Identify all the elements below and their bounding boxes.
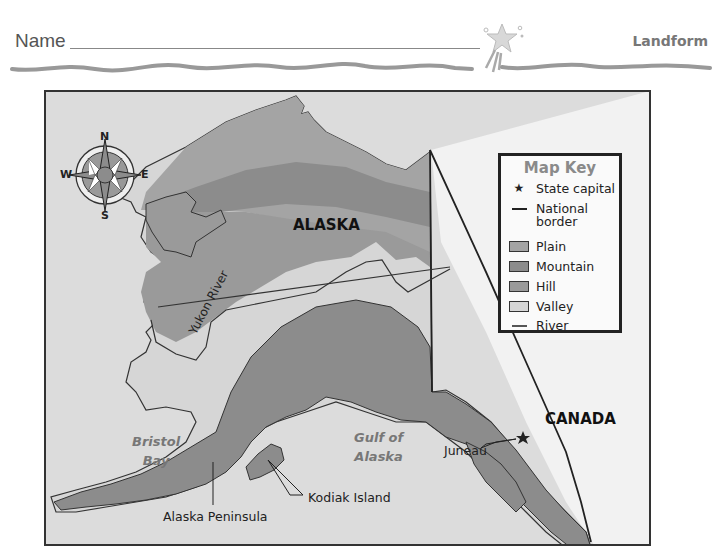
compass-east: E bbox=[141, 168, 149, 181]
kodiak-island-label: Kodiak Island bbox=[308, 490, 391, 505]
bristol-bay-label: Bristol Bay bbox=[132, 432, 180, 470]
name-input-line[interactable] bbox=[70, 48, 480, 49]
alaska-peninsula-label: Alaska Peninsula bbox=[163, 509, 268, 524]
region-label-canada: CANADA bbox=[545, 410, 616, 428]
juneau-label: Juneau bbox=[444, 443, 487, 458]
compass-north: N bbox=[100, 130, 109, 143]
river-line-icon bbox=[509, 319, 529, 332]
kodiak-pointer bbox=[268, 460, 303, 495]
map-key-title: Map Key bbox=[501, 159, 619, 177]
gulf-of-alaska-label: Gulf of Alaska bbox=[354, 428, 403, 466]
topic-label: Landform bbox=[632, 33, 708, 49]
compass-south: S bbox=[101, 209, 109, 222]
map-key: Map Key ★ State capital National border … bbox=[498, 153, 622, 333]
hill-swatch bbox=[509, 281, 529, 292]
worksheet-header: Name Landform bbox=[0, 0, 716, 85]
plain-swatch bbox=[509, 241, 529, 252]
wavy-divider bbox=[0, 55, 716, 80]
kodiak-island bbox=[246, 444, 284, 480]
mountain-swatch bbox=[509, 261, 529, 272]
star-icon: ★ bbox=[509, 182, 529, 195]
border-line-icon bbox=[509, 202, 529, 215]
name-label: Name bbox=[15, 30, 66, 52]
region-label-alaska: ALASKA bbox=[293, 216, 360, 234]
compass-west: W bbox=[60, 168, 72, 181]
valley-swatch bbox=[509, 301, 529, 312]
state-capital-star-icon bbox=[516, 431, 530, 444]
